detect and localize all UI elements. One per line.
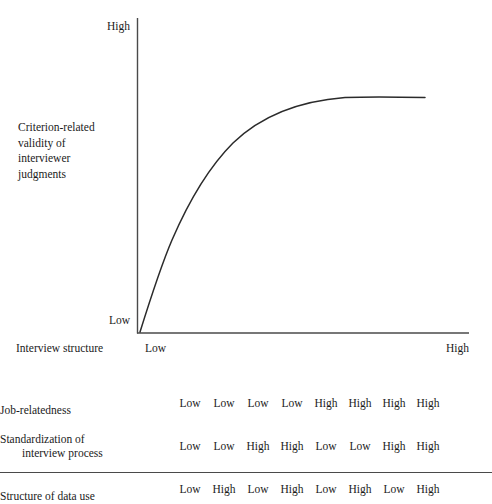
table-cell: Low <box>207 418 241 474</box>
table-cell: Low <box>173 418 207 474</box>
table-cell: High <box>411 418 445 474</box>
row-label: Structure of data use <box>0 474 160 504</box>
table-cell: High <box>343 474 377 504</box>
condition-table: Job-relatedness Low Low Low Low High Hig… <box>0 388 492 504</box>
y-axis-title: Criterion-related validity of interviewe… <box>18 120 130 182</box>
table-spacer <box>445 474 492 504</box>
table-cell: Low <box>275 388 309 418</box>
table-cell: Low <box>241 388 275 418</box>
table-cell: High <box>241 418 275 474</box>
table-cell: Low <box>241 474 275 504</box>
row-label-line1: Job-relatedness <box>0 404 71 416</box>
table-cell: High <box>275 474 309 504</box>
x-axis-low-label: Low <box>145 341 166 355</box>
x-axis-title: Interview structure <box>16 341 103 355</box>
table-spacer <box>445 388 492 418</box>
row-label-line2: interview process <box>0 446 160 460</box>
row-label: Standardization of interview process <box>0 418 160 474</box>
table-bottom-rule <box>0 472 492 473</box>
table-cell: Low <box>207 388 241 418</box>
table-cell: High <box>411 388 445 418</box>
table-spacer <box>160 418 173 474</box>
table-spacer <box>160 474 173 504</box>
row-label: Job-relatedness <box>0 388 160 418</box>
table-cell: High <box>275 418 309 474</box>
table-cell: High <box>309 388 343 418</box>
table-cell: Low <box>343 418 377 474</box>
table-cell: High <box>377 388 411 418</box>
table-cell: High <box>343 388 377 418</box>
row-label-line1: Standardization of <box>0 433 85 445</box>
y-axis-low-label: Low <box>92 313 130 327</box>
validity-curve <box>140 97 425 332</box>
y-axis-high-label: High <box>92 19 130 33</box>
table-cell: High <box>377 418 411 474</box>
row-label-line1: Structure of data use <box>0 490 95 502</box>
table-spacer <box>445 418 492 474</box>
chart-plot <box>0 0 492 380</box>
table-cell: Low <box>173 388 207 418</box>
table-cell: High <box>411 474 445 504</box>
table-cell: Low <box>309 418 343 474</box>
table-cell: Low <box>377 474 411 504</box>
table-row: Job-relatedness Low Low Low Low High Hig… <box>0 388 492 418</box>
table-cell: Low <box>173 474 207 504</box>
table-cell: Low <box>309 474 343 504</box>
table-spacer <box>160 388 173 418</box>
table-row: Standardization of interview process Low… <box>0 418 492 474</box>
x-axis-high-label: High <box>411 341 469 355</box>
table-cell: High <box>207 474 241 504</box>
table-row: Structure of data use Low High Low High … <box>0 474 492 504</box>
